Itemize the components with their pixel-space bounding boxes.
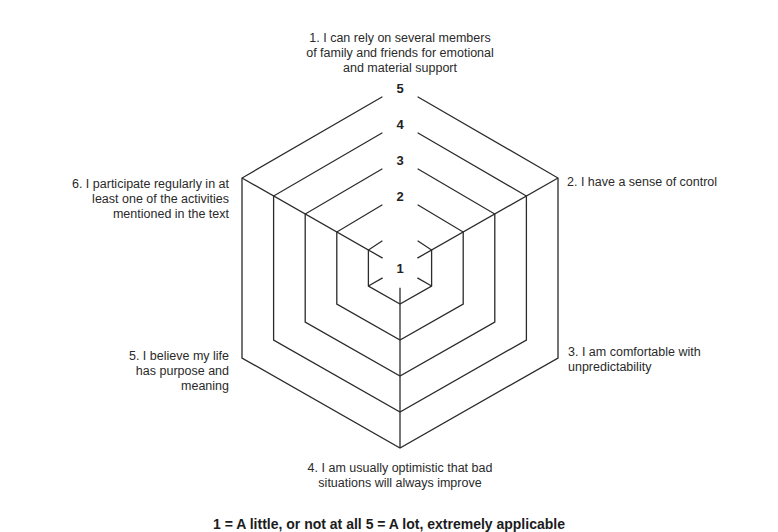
spoke-upper-left [242,178,383,258]
spoke-upper-right [417,178,558,258]
scale-numbers: 12345 [396,81,404,276]
spoke-lower-right-inner [417,278,431,286]
spoke-lower-left-inner [368,278,382,286]
scale-number-2: 2 [396,189,403,204]
scale-number-1: 1 [396,261,403,276]
hexagon-spokes [242,178,558,448]
scale-legend: 1 = A little, or not at all 5 = A lot, e… [0,516,778,532]
scale-number-4: 4 [396,117,404,132]
scale-number-5: 5 [396,81,403,96]
scale-number-3: 3 [396,153,403,168]
